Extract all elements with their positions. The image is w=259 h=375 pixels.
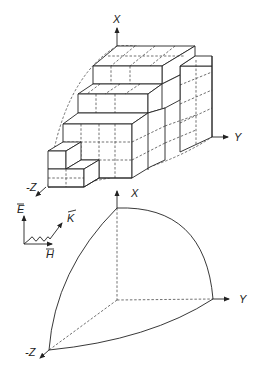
voxel-column-right: [180, 56, 212, 152]
hidden-z-axis: [49, 300, 117, 350]
x-axis-label-bottom: X: [130, 187, 139, 199]
voxel-octant-figure: X Y -Z: [26, 13, 242, 196]
z-axis-arrow: [36, 187, 46, 196]
y-axis-label-top: Y: [234, 131, 242, 143]
em-wave-inset: E H K: [17, 203, 76, 260]
z-axis-label-top: -Z: [26, 181, 38, 193]
diagram-canvas: X Y -Z: [0, 0, 259, 375]
x-axis-label-top: X: [112, 13, 121, 25]
k-wave-arrow: [24, 223, 62, 244]
z-axis-label-bottom: -Z: [25, 346, 37, 358]
arc-x-z: [49, 208, 117, 350]
hidden-y-axis: [117, 299, 213, 300]
k-vector-label: K: [67, 212, 75, 224]
y-axis-label-bottom: Y: [239, 293, 247, 305]
smooth-octant-figure: X Y -Z: [25, 187, 247, 358]
arc-x-y: [117, 208, 213, 299]
arc-z-y: [49, 299, 213, 350]
z-axis-arrow-bottom: [40, 350, 49, 358]
h-field-label: H: [46, 248, 54, 260]
e-field-label: E: [17, 203, 25, 215]
